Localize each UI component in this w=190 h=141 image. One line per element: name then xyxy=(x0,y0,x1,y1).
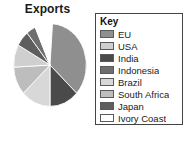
legend-item-label: Brazil xyxy=(118,77,142,88)
pie-svg xyxy=(13,23,87,107)
legend-item-label: Indonesia xyxy=(118,65,159,76)
legend-item: EU xyxy=(100,28,182,40)
legend-item-label: EU xyxy=(118,29,131,40)
legend-title: Key xyxy=(100,16,182,27)
legend-item-label: South Africa xyxy=(118,89,169,100)
legend-item-label: Japan xyxy=(118,101,144,112)
legend-swatch-icon xyxy=(100,66,114,74)
legend-item-label: Ivory Coast xyxy=(118,113,166,124)
legend-item: USA xyxy=(100,40,182,52)
legend-item-label: USA xyxy=(118,41,138,52)
legend-item-label: India xyxy=(118,53,139,64)
legend-swatch-icon xyxy=(100,42,114,50)
legend-swatch-icon xyxy=(100,30,114,38)
legend-item: Ivory Coast xyxy=(100,112,182,124)
legend-item: Brazil xyxy=(100,76,182,88)
legend-swatch-icon xyxy=(100,78,114,86)
legend-item-list: EUUSAIndiaIndonesiaBrazilSouth AfricaJap… xyxy=(100,28,182,124)
legend-item: Indonesia xyxy=(100,64,182,76)
legend: Key EUUSAIndiaIndonesiaBrazilSouth Afric… xyxy=(95,13,183,125)
legend-swatch-icon xyxy=(100,54,114,62)
pie-chart-figure: Exports Key EUUSAIndiaIndonesiaBrazilSou… xyxy=(0,0,190,141)
legend-swatch-icon xyxy=(100,114,114,122)
legend-swatch-icon xyxy=(100,102,114,110)
pie-slice-group xyxy=(14,24,87,107)
legend-item: India xyxy=(100,52,182,64)
legend-item: South Africa xyxy=(100,88,182,100)
pie-plot xyxy=(13,23,87,107)
legend-swatch-icon xyxy=(100,90,114,98)
page-title: Exports xyxy=(0,2,95,16)
chart-area: Exports xyxy=(0,0,95,141)
legend-item: Japan xyxy=(100,100,182,112)
